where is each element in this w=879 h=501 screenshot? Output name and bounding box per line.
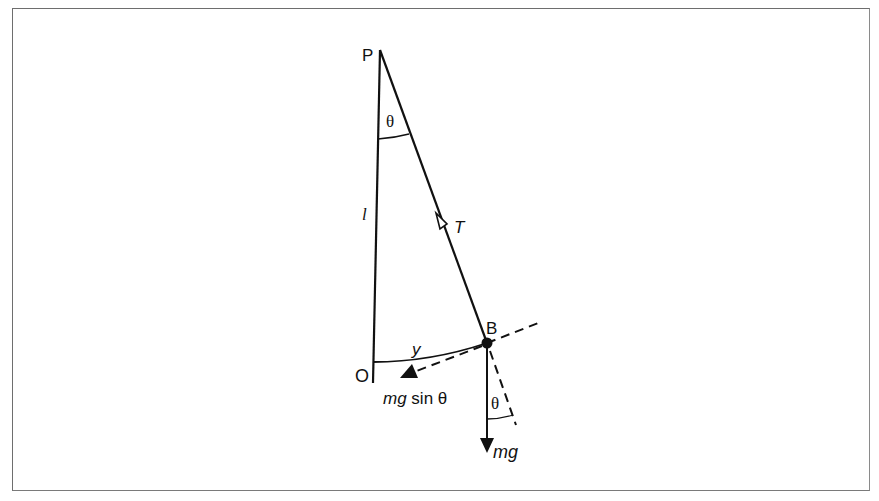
pendulum-diagram: P θ l T B y O mg sin θ θ mg [0,0,879,501]
label-angle-top: θ [386,112,394,131]
label-restoring-force: mg sin θ [383,389,447,408]
vertical-line-PO [373,50,380,383]
label-restoring-sin: sin θ [407,389,448,408]
label-weight: mg [493,442,518,462]
angle-arc-top [378,134,409,139]
string-PB [380,50,487,343]
string-extension-dashed-line [490,351,516,425]
weight-arrowhead-icon [480,438,494,453]
label-restoring-mg: mg [383,389,407,408]
restoring-force-arrowhead-icon [400,364,418,378]
label-length: l [362,205,367,224]
label-tension: T [454,218,466,237]
label-pivot: P [362,46,373,65]
bob [482,338,493,349]
displacement-arc [373,343,487,362]
angle-arc-bottom [487,415,513,419]
label-bob: B [486,319,497,338]
label-origin: O [355,366,369,386]
label-displacement: y [411,340,422,359]
label-angle-bottom: θ [491,394,499,413]
